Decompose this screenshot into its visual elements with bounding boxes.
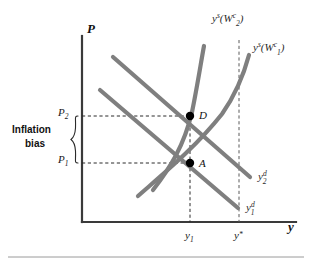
point-a-marker <box>186 159 194 167</box>
output-axis-label: y <box>286 219 294 234</box>
price-tick-p1-sub: 1 <box>65 159 69 168</box>
point-d-label: D <box>198 109 207 121</box>
supply-2-label-arg-open: (W <box>220 12 234 25</box>
supply-1-label-arg-open: (W <box>261 41 275 54</box>
demand-2-label-sub: 2 <box>263 177 267 186</box>
output-tick-y1-sub: 1 <box>190 235 194 244</box>
inflation-bias-label-line1: Inflation <box>12 124 51 135</box>
point-a-label: A <box>198 157 206 169</box>
supply-2-label-arg-close: ) <box>239 12 244 25</box>
demand-1-label-sub: 1 <box>251 208 255 217</box>
point-d-marker <box>186 112 194 120</box>
supply-1-label-arg-close: ) <box>280 41 285 54</box>
price-axis-label: P <box>87 21 96 36</box>
inflation-bias-diagram: P y P2 P1 y1 y* D A Infla <box>0 0 312 268</box>
inflation-bias-label-line2: bias <box>25 138 45 149</box>
price-tick-p2-sub: 2 <box>65 112 69 121</box>
output-tick-y-star-sub: * <box>239 230 243 239</box>
